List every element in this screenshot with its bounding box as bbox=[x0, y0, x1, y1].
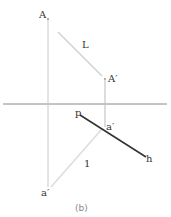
label-a-prime-lower: a′ bbox=[41, 187, 50, 198]
label-A-prime: A′ bbox=[107, 73, 118, 84]
line-L bbox=[58, 32, 102, 76]
label-p: p bbox=[75, 107, 81, 118]
label-1: 1 bbox=[84, 158, 90, 169]
projection-diagram: A L A′ p a′ h 1 a′ (b) bbox=[0, 0, 171, 217]
figure-caption: (b) bbox=[75, 203, 88, 213]
point-A-prime bbox=[104, 78, 106, 80]
point-A bbox=[47, 18, 49, 20]
label-A: A bbox=[38, 9, 47, 20]
label-a-prime-upper: a′ bbox=[106, 121, 115, 132]
line-1 bbox=[51, 129, 102, 187]
label-L: L bbox=[82, 39, 89, 50]
label-h: h bbox=[146, 153, 153, 164]
